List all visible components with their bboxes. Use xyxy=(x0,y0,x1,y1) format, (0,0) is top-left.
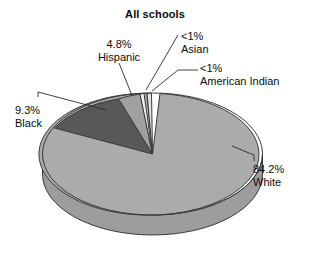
leader-line-asian xyxy=(146,35,178,90)
slice-percent-hispanic: 4.8% xyxy=(88,38,150,51)
slice-label-asian: <1% Asian xyxy=(181,30,209,55)
slice-percent-american-indian: <1% xyxy=(200,62,280,75)
slice-label-american-indian: <1% American Indian xyxy=(200,62,280,87)
slice-label-white: 84.2% White xyxy=(253,163,284,188)
slice-name-white: White xyxy=(253,176,284,189)
slice-percent-black: 9.3% xyxy=(15,104,71,117)
slice-label-hispanic: 4.8% Hispanic xyxy=(88,38,150,63)
slice-name-hispanic: Hispanic xyxy=(88,51,150,64)
leader-line-hispanic xyxy=(119,63,131,96)
leader-line-american-indian xyxy=(152,70,198,91)
slice-percent-white: 84.2% xyxy=(253,163,284,176)
slice-label-black: 9.3% Black xyxy=(15,104,71,129)
slice-name-black: Black xyxy=(15,117,71,130)
slice-name-american-indian: American Indian xyxy=(200,75,280,88)
slice-percent-asian: <1% xyxy=(181,30,209,43)
pie-chart-figure: All schools xyxy=(0,0,310,253)
pie-slices xyxy=(39,93,263,215)
slice-name-asian: Asian xyxy=(181,43,209,56)
